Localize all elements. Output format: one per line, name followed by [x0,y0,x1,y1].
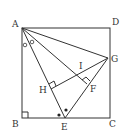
segment-ag [22,28,108,58]
segment-af [22,28,87,84]
angle-mark-a-2 [30,40,34,44]
angle-mark-e-1 [57,113,60,116]
label-a: A [11,19,19,29]
label-d: D [112,17,119,27]
segment-ae [22,28,65,118]
label-b: B [12,119,19,129]
angle-mark-e-2 [64,108,67,111]
geometry-diagram: A D G I H F B E C [0,0,130,134]
label-e: E [61,122,68,132]
label-f: F [90,84,96,94]
label-c: C [109,119,116,129]
right-angle-h [49,81,56,86]
label-i: I [79,61,83,71]
label-g: G [111,54,118,64]
label-h: H [39,85,47,95]
segment-eg [65,58,108,118]
angle-mark-a-1 [23,43,27,47]
right-angle-b [22,112,28,118]
